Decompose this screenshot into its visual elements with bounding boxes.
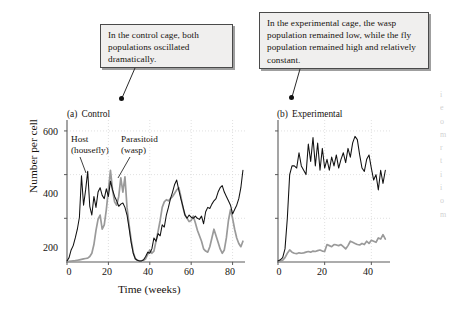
page-bleed-artifact: ieomrtiiom bbox=[440, 88, 450, 288]
chart-panel-b-experimental bbox=[275, 120, 390, 265]
chart-panel-a-control bbox=[64, 120, 245, 265]
plot-canvas bbox=[0, 0, 450, 309]
series-line-parasitoid bbox=[278, 235, 385, 262]
leader-line-host bbox=[80, 157, 86, 173]
figure-population-dynamics: In the control cage, both populations os… bbox=[0, 0, 450, 309]
series-line-parasitoid bbox=[67, 170, 243, 261]
